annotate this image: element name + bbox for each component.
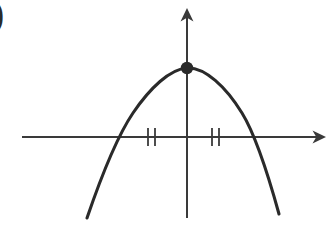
parabola-curve [87, 68, 279, 218]
vertex-dot [181, 62, 193, 74]
graph-canvas [0, 0, 332, 226]
axes-group [22, 8, 326, 218]
parabola-figure: ) [0, 0, 332, 226]
